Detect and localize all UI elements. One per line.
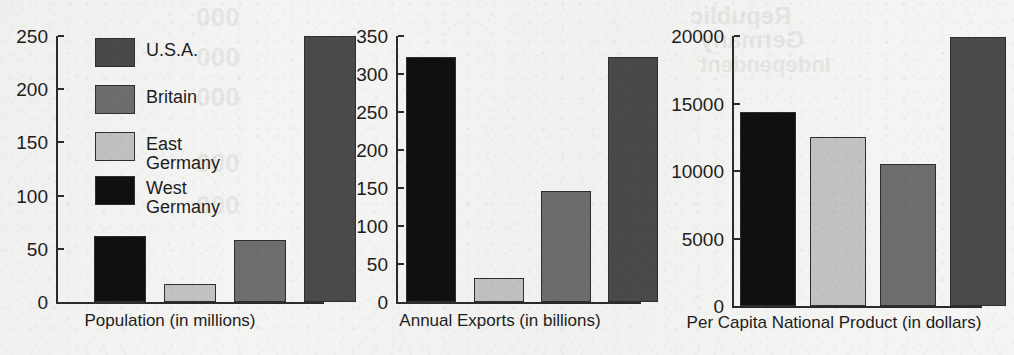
y-axis-tick <box>398 73 404 75</box>
legend-swatch-usa <box>95 38 135 67</box>
legend-item-u-s-a: U.S.A. <box>95 38 198 67</box>
plot-area-per-capita-product: 05000100001500020000 <box>732 36 982 306</box>
bar-west-germany <box>406 57 456 302</box>
bar-britain <box>234 240 286 302</box>
y-axis-tick-label: 300 <box>298 65 388 84</box>
y-axis-tick <box>398 35 404 37</box>
y-axis-tick-label: 5000 <box>634 230 724 249</box>
y-axis-tick-label: 350 <box>298 27 388 46</box>
y-axis-tick-label: 10000 <box>634 162 724 181</box>
bar-west-germany <box>94 236 146 302</box>
legend-label: Britain <box>146 85 197 107</box>
chart-panel-per-capita-product: 05000100001500020000 Per Capita National… <box>660 0 1014 355</box>
y-axis-tick-label: 250 <box>0 27 48 46</box>
y-axis-tick-label: 50 <box>298 255 388 274</box>
x-axis-line <box>56 302 324 304</box>
y-axis-tick-label: 100 <box>0 187 48 206</box>
bar-east-germany <box>164 284 216 302</box>
y-axis-tick <box>398 187 404 189</box>
bar-east-germany <box>474 278 524 302</box>
y-axis-tick <box>58 195 64 197</box>
y-axis-tick-label: 150 <box>0 133 48 152</box>
y-axis-tick <box>398 225 404 227</box>
y-axis-tick-label: 100 <box>298 217 388 236</box>
legend-item-britain: Britain <box>95 85 197 114</box>
y-axis-tick <box>734 35 740 37</box>
y-axis-tick <box>58 35 64 37</box>
chart-caption-population: Population (in millions) <box>0 312 340 329</box>
legend-item-west-germany: West Germany <box>95 176 220 217</box>
bar-east-germany <box>810 137 866 306</box>
bar-britain <box>541 191 591 302</box>
y-axis-tick-label: 20000 <box>634 27 724 46</box>
y-axis-tick-label: 0 <box>0 293 48 312</box>
bar-britain <box>880 164 936 306</box>
y-axis-tick-label: 200 <box>0 80 48 99</box>
y-axis-tick-label: 0 <box>634 297 724 316</box>
x-axis-line <box>396 302 641 304</box>
y-axis-tick <box>58 248 64 250</box>
chart-caption-annual-exports: Annual Exports (in billions) <box>340 312 660 329</box>
legend-swatch-east-germany <box>95 132 135 161</box>
legend-swatch-britain <box>95 85 135 114</box>
plot-area-annual-exports: 050100150200250300350 <box>396 36 641 302</box>
y-axis-tick <box>398 111 404 113</box>
bar-u-s-a- <box>950 37 1006 306</box>
chart-caption-per-capita-product: Per Capita National Product (in dollars) <box>654 314 1014 331</box>
y-axis-tick <box>398 263 404 265</box>
legend-item-east-germany: East Germany <box>95 132 220 173</box>
legend-swatch-west-germany <box>95 176 135 205</box>
x-axis-line <box>732 306 982 308</box>
y-axis-tick <box>734 103 740 105</box>
legend-label: U.S.A. <box>146 38 198 60</box>
legend-label: East Germany <box>146 132 220 173</box>
figure-bar-charts: 000000000000000RepublicGermanyIndependen… <box>0 0 1014 355</box>
y-axis-tick-label: 250 <box>298 103 388 122</box>
legend-label: West Germany <box>146 176 220 217</box>
y-axis-line <box>56 36 58 302</box>
y-axis-tick-label: 200 <box>298 141 388 160</box>
y-axis-tick-label: 0 <box>298 293 388 312</box>
y-axis-tick <box>58 141 64 143</box>
y-axis-tick <box>58 88 64 90</box>
y-axis-tick-label: 150 <box>298 179 388 198</box>
bar-west-germany <box>740 112 796 306</box>
y-axis-tick <box>398 149 404 151</box>
chart-panel-annual-exports: 050100150200250300350 Annual Exports (in… <box>340 0 660 355</box>
y-axis-tick-label: 50 <box>0 240 48 259</box>
y-axis-tick-label: 15000 <box>634 95 724 114</box>
